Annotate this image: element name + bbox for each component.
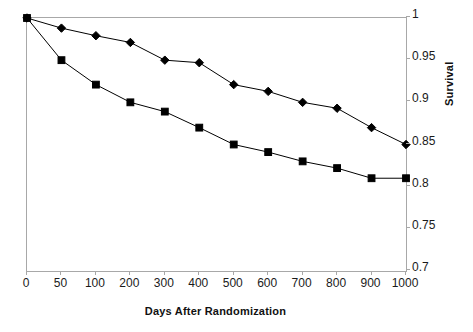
x-tick-label: 0 <box>23 277 30 289</box>
series-line <box>27 18 406 178</box>
x-tick-label: 600 <box>257 277 277 289</box>
plot-area <box>26 17 407 272</box>
x-tick-mark <box>95 271 96 275</box>
data-point-diamond <box>92 32 100 40</box>
data-point-diamond <box>298 98 306 106</box>
x-axis-title: Days After Randomization <box>26 305 405 317</box>
data-point-square <box>161 108 168 115</box>
x-tick-mark <box>336 271 337 275</box>
y-tick-label: 1 <box>412 8 419 20</box>
y-tick-label: 0.95 <box>412 50 435 62</box>
x-tick-mark <box>233 271 234 275</box>
data-point-square <box>24 15 31 22</box>
data-point-square <box>299 158 306 165</box>
y-tick-mark <box>406 185 410 186</box>
data-series <box>23 14 410 149</box>
data-point-diamond <box>333 104 341 112</box>
data-point-square <box>368 175 375 182</box>
data-series <box>24 15 410 182</box>
x-axis: 0501002003004005006007008009001000 <box>26 271 405 301</box>
survival-chart: 10.950.90.850.80.750.7 Survival 05010020… <box>0 0 473 332</box>
y-axis-title: Survival <box>443 62 455 106</box>
data-point-diamond <box>230 80 238 88</box>
y-tick-label: 0.75 <box>412 219 435 231</box>
y-tick-mark <box>406 227 410 228</box>
x-tick-mark <box>26 271 27 275</box>
x-tick-mark <box>302 271 303 275</box>
data-point-diamond <box>161 56 169 64</box>
data-point-diamond <box>367 123 375 131</box>
x-tick-label: 800 <box>326 277 346 289</box>
x-tick-label: 50 <box>54 277 67 289</box>
data-point-square <box>230 141 237 148</box>
series-layer <box>27 18 406 271</box>
data-point-square <box>196 124 203 131</box>
data-point-square <box>265 149 272 156</box>
x-tick-label: 500 <box>223 277 243 289</box>
x-tick-label: 100 <box>85 277 105 289</box>
y-tick-mark <box>406 269 410 270</box>
y-tick-mark <box>406 58 410 59</box>
x-tick-mark <box>405 271 406 275</box>
x-tick-mark <box>267 271 268 275</box>
x-tick-label: 300 <box>154 277 174 289</box>
data-point-diamond <box>195 58 203 66</box>
y-tick-mark <box>406 143 410 144</box>
x-tick-mark <box>164 271 165 275</box>
series-line <box>27 18 406 145</box>
y-tick-mark <box>406 16 410 17</box>
y-tick-label: 0.8 <box>412 177 429 189</box>
data-point-diamond <box>57 24 65 32</box>
y-tick-mark <box>406 100 410 101</box>
data-point-square <box>93 81 100 88</box>
data-point-diamond <box>126 38 134 46</box>
y-tick-label: 0.7 <box>412 261 429 273</box>
data-point-diamond <box>264 87 272 95</box>
x-tick-mark <box>129 271 130 275</box>
x-tick-label: 200 <box>119 277 139 289</box>
data-point-square <box>58 57 65 64</box>
x-tick-mark <box>198 271 199 275</box>
x-tick-label: 400 <box>188 277 208 289</box>
data-point-square <box>127 99 134 106</box>
x-tick-label: 1000 <box>392 277 419 289</box>
y-tick-label: 0.9 <box>412 92 429 104</box>
x-tick-mark <box>60 271 61 275</box>
data-point-square <box>334 165 341 172</box>
y-tick-label: 0.85 <box>412 135 435 147</box>
x-tick-label: 700 <box>292 277 312 289</box>
x-tick-mark <box>371 271 372 275</box>
x-tick-label: 900 <box>361 277 381 289</box>
